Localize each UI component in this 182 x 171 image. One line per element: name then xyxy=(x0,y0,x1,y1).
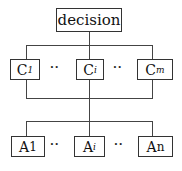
criteria-ellipsis-right: ·· xyxy=(113,61,123,74)
alternative-node-1: A1 xyxy=(11,136,45,157)
alternative-subscript: i xyxy=(93,142,96,152)
alternative-subscript: 1 xyxy=(29,140,37,154)
criteria-drop-m xyxy=(152,45,153,59)
root-stem-line xyxy=(89,31,90,45)
alternatives-drop-i xyxy=(89,121,90,136)
decision-node: decision xyxy=(56,8,122,32)
alternative-node-n: An xyxy=(138,136,173,157)
criterion-label: C xyxy=(17,62,28,78)
criteria-ellipsis-left: ·· xyxy=(50,61,60,74)
alternative-node-i: Ai xyxy=(74,136,105,157)
alternative-label: A xyxy=(19,139,29,155)
criterion-subscript: m xyxy=(156,65,165,75)
alternative-label: A xyxy=(83,139,93,155)
criterion-node-1: C1 xyxy=(10,59,40,80)
alternative-label: A xyxy=(147,139,157,155)
criterion-subscript: i xyxy=(94,65,97,75)
criterion-node-m: Cm xyxy=(137,59,173,80)
criteria-rise-1 xyxy=(26,79,27,99)
criteria-rise-m xyxy=(152,79,153,99)
alternatives-stem-line xyxy=(89,98,90,121)
criterion-subscript: 1 xyxy=(27,65,33,75)
criteria-rise-i xyxy=(89,79,90,99)
decision-label: decision xyxy=(58,11,121,29)
criteria-drop-i xyxy=(89,45,90,59)
criterion-node-i: Ci xyxy=(76,59,104,80)
criteria-drop-1 xyxy=(26,45,27,59)
alternatives-ellipsis-left: ·· xyxy=(50,138,60,151)
alternatives-drop-n xyxy=(152,121,153,136)
criterion-label: C xyxy=(145,62,156,78)
alternative-subscript: n xyxy=(157,140,165,154)
alternatives-drop-1 xyxy=(26,121,27,136)
alternatives-ellipsis-right: ·· xyxy=(114,138,124,151)
criterion-label: C xyxy=(83,62,94,78)
